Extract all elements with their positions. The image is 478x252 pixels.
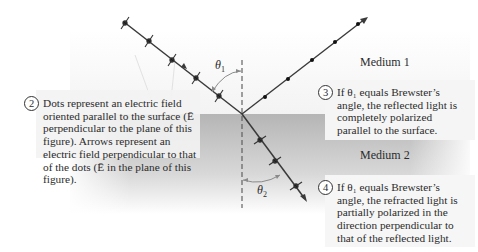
note-2-number: 2: [24, 96, 39, 111]
note-3: 3 If θ₁ equals Brewster’s angle, the ref…: [318, 86, 460, 137]
note-4-text: If θ₁ equals Brewster’s angle, the refra…: [318, 181, 468, 245]
theta1-subscript: 1: [221, 65, 225, 74]
note-4: 4 If θ₁ equals Brewster’s angle, the ref…: [318, 181, 468, 245]
note-2-text: Dots represent an electric field oriente…: [24, 97, 202, 186]
theta2-subscript: 2: [263, 190, 267, 199]
theta2-label: θ2: [257, 183, 267, 199]
medium-2-label: Medium 2: [360, 148, 410, 163]
note-4-number: 4: [318, 180, 333, 195]
reflected-arrowhead: [360, 17, 368, 24]
medium-1-label: Medium 1: [360, 55, 410, 70]
note-3-text: If θ₁ equals Brewster’s angle, the refle…: [318, 86, 460, 137]
theta1-label: θ1: [215, 58, 225, 74]
note-3-number: 3: [318, 85, 333, 100]
note-2: 2 Dots represent an electric field orien…: [24, 97, 202, 186]
